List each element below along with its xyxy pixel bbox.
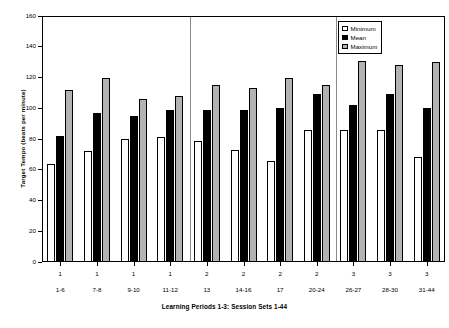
x-tick-period-label: 1 [42, 270, 79, 277]
x-tick-mark [427, 262, 428, 266]
bar-maximum [432, 62, 440, 262]
x-tick-mark [60, 262, 61, 266]
bar-minimum [304, 130, 312, 262]
x-tick-session-label: 20-24 [298, 286, 335, 293]
bar-mean [349, 105, 357, 262]
bar-minimum [377, 130, 385, 262]
x-tick-period-label: 1 [115, 270, 152, 277]
chart-legend: MinimumMeanMaximum [338, 21, 382, 54]
x-tick-mark [390, 262, 391, 266]
bar-maximum [395, 65, 403, 262]
x-tick-mark [170, 262, 171, 266]
y-tick-label: 20 [29, 227, 36, 234]
bar-group [414, 16, 440, 262]
bar-maximum [212, 85, 220, 262]
bar-minimum [47, 164, 55, 262]
bar-mean [56, 136, 64, 262]
bar-group [194, 16, 220, 262]
y-tick-label: 100 [26, 104, 36, 111]
x-tick-session-label: 9-10 [115, 286, 152, 293]
x-tick-session-label: 7-8 [79, 286, 116, 293]
x-tick-period-label: 2 [262, 270, 299, 277]
y-tick-label: 80 [29, 135, 36, 142]
x-tick-period-label: 2 [225, 270, 262, 277]
bar-minimum [84, 151, 92, 262]
bar-maximum [65, 90, 73, 262]
bar-minimum [121, 139, 129, 262]
bar-group [267, 16, 293, 262]
legend-label: Mean [351, 34, 366, 41]
bar-maximum [102, 78, 110, 263]
x-tick-session-label: 17 [262, 286, 299, 293]
chart-figure: Target Tempo (beats per minute) 02040608… [0, 0, 449, 328]
bar-maximum [322, 85, 330, 262]
bar-group [47, 16, 73, 262]
legend-label: Maximum [351, 43, 378, 50]
bar-maximum [249, 88, 257, 262]
x-tick-mark [280, 262, 281, 266]
bar-maximum [358, 61, 366, 262]
legend-swatch-icon [342, 35, 348, 41]
bar-minimum [231, 150, 239, 262]
bar-mean [166, 110, 174, 262]
x-axis-title: Learning Periods 1-3: Session Sets 1-44 [0, 303, 449, 310]
bar-group [231, 16, 257, 262]
x-tick-session-label: 11-12 [152, 286, 189, 293]
x-tick-period-label: 3 [408, 270, 445, 277]
bar-mean [276, 108, 284, 262]
x-tick-period-label: 2 [298, 270, 335, 277]
bar-minimum [157, 137, 165, 262]
bar-maximum [175, 96, 183, 262]
bar-group [304, 16, 330, 262]
y-tick-label: 140 [26, 42, 36, 49]
legend-item: Maximum [342, 42, 377, 51]
x-tick-mark [353, 262, 354, 266]
legend-label: Minimum [351, 25, 376, 32]
bar-minimum [340, 130, 348, 262]
x-tick-session-label: 14-16 [225, 286, 262, 293]
bar-minimum [267, 161, 275, 262]
y-tick-label: 160 [26, 12, 36, 19]
legend-swatch-icon [342, 44, 348, 50]
bar-maximum [285, 78, 293, 263]
bar-group [157, 16, 183, 262]
y-tick-label: 0 [33, 258, 36, 265]
bar-group [121, 16, 147, 262]
y-tick-label: 60 [29, 165, 36, 172]
x-tick-session-label: 31-44 [408, 286, 445, 293]
x-tick-period-label: 3 [335, 270, 372, 277]
bar-mean [386, 94, 394, 262]
x-tick-period-label: 1 [79, 270, 116, 277]
x-tick-mark [244, 262, 245, 266]
x-tick-mark [207, 262, 208, 266]
bar-group [84, 16, 110, 262]
x-tick-session-label: 13 [189, 286, 226, 293]
x-tick-session-label: 1-6 [42, 286, 79, 293]
x-tick-mark [134, 262, 135, 266]
x-tick-period-label: 3 [372, 270, 409, 277]
x-tick-session-label: 28-30 [372, 286, 409, 293]
y-axis-title: Target Tempo (beats per minute) [19, 64, 26, 214]
legend-item: Minimum [342, 24, 377, 33]
y-tick-label: 40 [29, 196, 36, 203]
bar-maximum [139, 99, 147, 262]
x-axis-ticks: 11-617-819-10111-12213214-16217220-24326… [42, 262, 445, 302]
legend-item: Mean [342, 33, 377, 42]
bar-mean [313, 94, 321, 262]
bar-mean [93, 113, 101, 262]
bar-mean [130, 116, 138, 262]
bar-minimum [414, 157, 422, 262]
bar-mean [240, 110, 248, 262]
x-tick-session-label: 26-27 [335, 286, 372, 293]
bar-minimum [194, 141, 202, 262]
x-tick-period-label: 1 [152, 270, 189, 277]
bar-mean [423, 108, 431, 262]
bar-mean [203, 110, 211, 262]
x-tick-mark [317, 262, 318, 266]
x-tick-period-label: 2 [189, 270, 226, 277]
bars-layer [42, 16, 445, 262]
y-tick-label: 120 [26, 73, 36, 80]
x-tick-mark [97, 262, 98, 266]
legend-swatch-icon [342, 26, 348, 32]
